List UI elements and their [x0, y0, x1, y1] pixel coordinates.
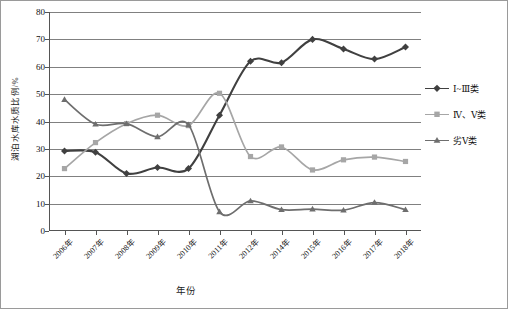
y-tick-label: 50 [36, 90, 45, 99]
data-point-marker [61, 96, 68, 102]
y-axis-title: 湖泊水库水质比例/% [8, 59, 20, 179]
data-point-marker [248, 154, 253, 159]
data-point-marker [62, 166, 67, 171]
y-tick-mark [45, 231, 49, 232]
data-point-marker [340, 45, 347, 52]
legend-label: Ⅳ、Ⅴ类 [453, 108, 487, 121]
legend-item[interactable]: Ⅰ~Ⅲ类 [425, 75, 508, 101]
chart-figure: 湖泊水库水质比例/% 01020304050607080 2006年2007年2… [0, 0, 508, 309]
x-tick-mark [375, 231, 376, 235]
series-square [62, 91, 408, 173]
data-point-marker [434, 112, 439, 117]
x-tick-mark [344, 231, 345, 235]
x-tick-label: 2012年 [238, 238, 261, 261]
legend-label: 劣Ⅴ类 [453, 134, 478, 147]
data-point-marker [371, 56, 378, 63]
x-tick-mark [406, 231, 407, 235]
legend-label: Ⅰ~Ⅲ类 [453, 82, 479, 95]
y-tick-label: 40 [36, 117, 45, 126]
y-tick-label: 20 [36, 172, 45, 181]
y-tick-label: 60 [36, 62, 45, 71]
data-point-marker [123, 170, 130, 177]
data-point-marker [402, 44, 409, 51]
x-tick-mark [158, 231, 159, 235]
x-tick-mark [127, 231, 128, 235]
data-point-marker [309, 36, 316, 43]
data-point-marker [279, 144, 284, 149]
y-tick-label: 30 [36, 144, 45, 153]
plot-area: 01020304050607080 2006年2007年2008年2009年20… [49, 12, 421, 231]
data-point-marker [61, 148, 68, 155]
data-point-marker [154, 164, 161, 171]
legend-swatch [425, 109, 449, 119]
data-point-marker [341, 157, 346, 162]
x-tick-mark [189, 231, 190, 235]
x-tick-mark [96, 231, 97, 235]
x-tick-label: 2015年 [300, 238, 323, 261]
x-tick-label: 2011年 [207, 238, 229, 260]
legend-swatch [425, 83, 449, 93]
x-tick-label: 2018年 [393, 238, 416, 261]
x-tick-label: 2008年 [114, 238, 137, 261]
x-tick-label: 2006年 [52, 238, 75, 261]
plot-frame: 01020304050607080 2006年2007年2008年2009年20… [49, 12, 421, 231]
legend-item[interactable]: Ⅳ、Ⅴ类 [425, 101, 508, 127]
data-point-marker [403, 159, 408, 164]
data-point-marker [310, 167, 315, 172]
series-triangle [61, 96, 409, 215]
x-tick-mark [65, 231, 66, 235]
x-tick-label: 2007年 [83, 238, 106, 261]
data-point-marker [93, 140, 98, 145]
legend-triangle-icon [432, 135, 442, 145]
data-point-marker [92, 149, 99, 156]
legend-item[interactable]: 劣Ⅴ类 [425, 127, 508, 153]
x-tick-mark [282, 231, 283, 235]
y-tick-label: 80 [36, 8, 45, 17]
x-tick-label: 2009年 [145, 238, 168, 261]
x-tick-mark [251, 231, 252, 235]
legend-swatch [425, 135, 449, 145]
series-line [65, 39, 406, 174]
legend-diamond-icon [432, 83, 442, 93]
x-tick-label: 2016年 [331, 238, 354, 261]
legend-square-icon [432, 109, 442, 119]
series-diamond [61, 36, 409, 177]
y-tick-label: 10 [36, 199, 45, 208]
data-point-marker [434, 137, 441, 143]
data-series-layer [49, 12, 421, 231]
chart-legend: Ⅰ~Ⅲ类Ⅳ、Ⅴ类劣Ⅴ类 [425, 75, 508, 153]
data-point-marker [433, 85, 440, 92]
x-tick-label: 2017年 [362, 238, 385, 261]
x-tick-mark [313, 231, 314, 235]
data-point-marker [155, 113, 160, 118]
x-axis-title: 年份 [176, 283, 196, 297]
y-tick-label: 0 [41, 227, 46, 236]
series-line [65, 93, 406, 170]
data-point-marker [372, 154, 377, 159]
x-tick-label: 2010年 [176, 238, 199, 261]
data-point-marker [278, 59, 285, 66]
data-point-marker [217, 91, 222, 96]
x-tick-label: 2014年 [269, 238, 292, 261]
x-tick-mark [220, 231, 221, 235]
y-tick-label: 70 [36, 35, 45, 44]
